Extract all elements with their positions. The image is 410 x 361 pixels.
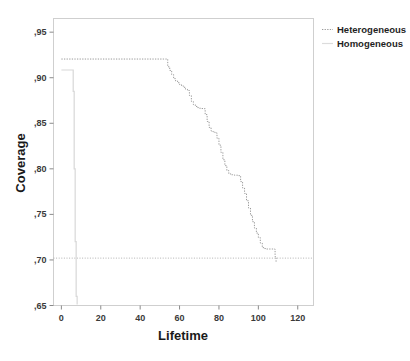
y-tick-label: ,95 (34, 27, 47, 37)
x-tick-label: 40 (135, 313, 145, 323)
y-tick-label: ,80 (34, 164, 47, 174)
y-tick-label: ,85 (34, 118, 47, 128)
y-tick-label: ,65 (34, 301, 47, 311)
y-tick-label: ,90 (34, 73, 47, 83)
x-tick-label: 100 (251, 313, 266, 323)
series-line-heterogeneous (61, 59, 276, 262)
y-axis-title: Coverage (13, 133, 28, 192)
x-tick-label: 80 (214, 313, 224, 323)
x-axis-ticks: 020406080100120 (59, 306, 305, 323)
legend-label-homogeneous: Homogeneous (337, 38, 403, 49)
legend-label-heterogeneous: Heterogeneous (337, 24, 406, 35)
x-tick-label: 60 (175, 313, 185, 323)
chart-legend: Heterogeneous Homogeneous (322, 24, 406, 49)
x-axis-title: Lifetime (158, 328, 208, 343)
y-tick-label: ,75 (34, 209, 47, 219)
chart-canvas: ,65,70,75,80,85,90,95 020406080100120 Li… (0, 0, 410, 361)
x-tick-label: 20 (96, 313, 106, 323)
x-tick-label: 0 (59, 313, 64, 323)
y-axis-ticks: ,65,70,75,80,85,90,95 (34, 27, 54, 310)
chart-figure: ,65,70,75,80,85,90,95 020406080100120 Li… (0, 0, 410, 361)
series-line-homogeneous (61, 70, 77, 305)
plot-frame (54, 19, 314, 306)
x-tick-label: 120 (290, 313, 305, 323)
y-tick-label: ,70 (34, 255, 47, 265)
